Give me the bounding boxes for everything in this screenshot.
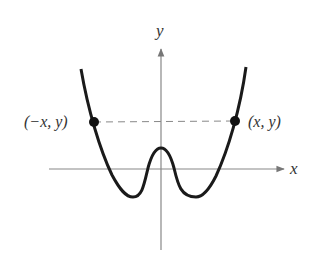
- function-curve: [81, 67, 246, 197]
- even-function-diagram: y x (−x, y) (x, y): [0, 0, 319, 255]
- point-left: [89, 117, 99, 127]
- point-left-label: (−x, y): [24, 113, 68, 131]
- x-axis-label: x: [289, 159, 298, 178]
- symmetry-dashed-line: [94, 121, 235, 122]
- point-right-label: (x, y): [248, 113, 281, 131]
- y-axis-label: y: [154, 21, 164, 40]
- point-right: [230, 116, 240, 126]
